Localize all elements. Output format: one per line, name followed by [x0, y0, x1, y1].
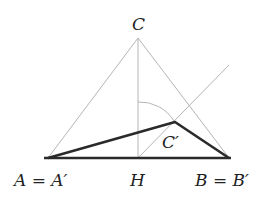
label-c-prime: C′ [162, 132, 179, 152]
segment-ac [48, 38, 138, 158]
label-b: B = B′ [194, 170, 249, 190]
diagram-svg: C C′ A = A′ H B = B′ [0, 0, 277, 201]
rotation-arc [138, 102, 174, 121]
label-h: H [129, 170, 146, 190]
geometry-diagram: C C′ A = A′ H B = B′ [0, 0, 277, 201]
label-c: C [132, 14, 145, 34]
segment-bc [138, 38, 229, 158]
rotated-ray [138, 65, 229, 158]
label-a: A = A′ [12, 170, 68, 190]
